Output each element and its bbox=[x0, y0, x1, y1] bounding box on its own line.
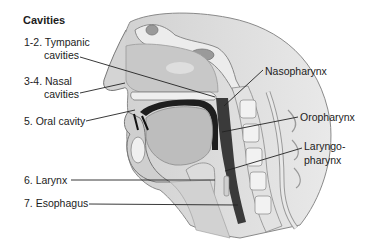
anatomy-diagram: Cavities 1-2. Tympanic cavities 3-4. Nas… bbox=[0, 0, 379, 242]
label-laryngopharynx-line1: Laryngo- bbox=[304, 140, 345, 152]
nose bbox=[104, 30, 126, 91]
diagram-title: Cavities bbox=[23, 14, 65, 26]
mandible bbox=[131, 137, 145, 163]
label-esophagus: 7. Esophagus bbox=[24, 197, 88, 209]
label-oral-cavity: 5. Oral cavity bbox=[24, 115, 85, 127]
label-laryngopharynx-line2: pharynx bbox=[304, 154, 341, 166]
label-nasal-line2: cavities bbox=[44, 88, 79, 100]
label-oropharynx: Oropharynx bbox=[300, 111, 355, 123]
label-nasopharynx: Nasopharynx bbox=[265, 65, 327, 77]
label-tympanic-line1: 1-2. Tympanic bbox=[24, 36, 90, 48]
label-larynx: 6. Larynx bbox=[24, 174, 67, 186]
label-nasal-line1: 3-4. Nasal bbox=[24, 75, 72, 87]
label-tympanic-line2: cavities bbox=[44, 49, 79, 61]
tongue bbox=[146, 107, 213, 165]
